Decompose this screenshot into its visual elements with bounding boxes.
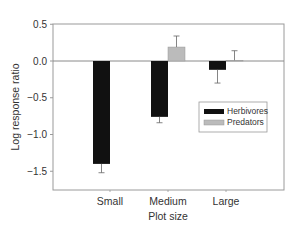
legend-swatch-herbivores xyxy=(204,109,224,114)
bar-chart: 0.50.0−0.5−1.0−1.5 SmallMediumLarge Log … xyxy=(0,0,300,231)
y-tick-label: −1.5 xyxy=(27,166,47,177)
x-axis-label: Plot size xyxy=(148,210,188,222)
y-tick-label: 0.0 xyxy=(33,56,47,67)
legend-label-herbivores: Herbivores xyxy=(227,106,268,116)
bar-predators-large xyxy=(226,60,243,61)
y-axis-label: Log response ratio xyxy=(9,63,21,150)
y-axis-ticks: 0.50.0−0.5−1.0−1.5 xyxy=(27,19,53,177)
x-tick-label: Medium xyxy=(149,195,187,207)
legend: Herbivores Predators xyxy=(199,102,268,132)
bar-herbivores-large xyxy=(209,61,226,70)
legend-label-predators: Predators xyxy=(227,117,264,127)
x-axis-tick-labels: SmallMediumLarge xyxy=(97,190,240,207)
legend-swatch-predators xyxy=(204,120,224,125)
y-tick-label: 0.5 xyxy=(33,19,47,30)
bar-herbivores-small xyxy=(93,61,110,164)
bar-predators-medium xyxy=(168,47,185,61)
bar-herbivores-medium xyxy=(151,61,168,117)
x-tick-label: Small xyxy=(97,195,123,207)
x-tick-label: Large xyxy=(213,195,240,207)
y-tick-label: −0.5 xyxy=(27,92,47,103)
y-tick-label: −1.0 xyxy=(27,129,47,140)
